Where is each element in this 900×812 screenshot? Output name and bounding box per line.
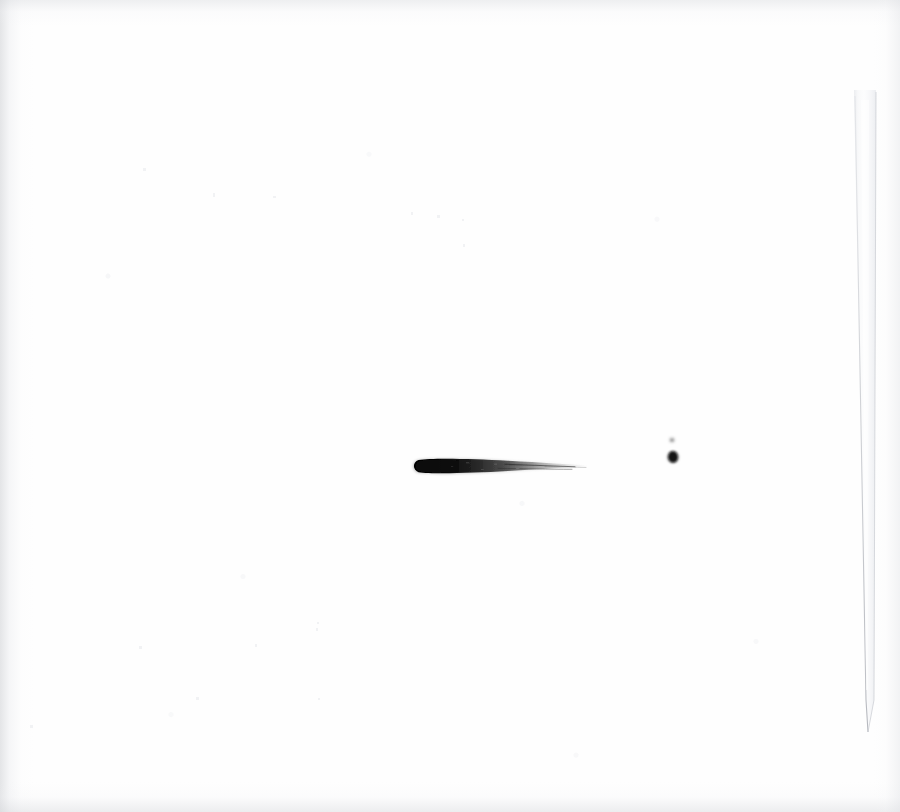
ink-dot-large bbox=[666, 450, 679, 463]
ink-artwork-layer bbox=[0, 0, 900, 812]
ink-dot-small-core bbox=[670, 438, 673, 441]
scan-canvas bbox=[0, 0, 900, 812]
ink-dot-small bbox=[669, 437, 676, 443]
ink-dot-large-core bbox=[668, 451, 678, 462]
scanner-dust-specks bbox=[30, 168, 465, 728]
tapering-ink-stroke bbox=[413, 459, 589, 474]
